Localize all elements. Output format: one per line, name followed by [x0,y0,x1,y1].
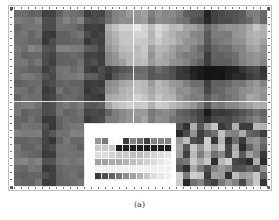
inset-cell [95,138,102,145]
axis-tick [126,187,127,189]
axis-tick [204,7,205,9]
inset-cell [123,145,130,152]
axis-tick [268,116,270,117]
inset-cell [123,166,130,173]
inset-cell [102,138,109,145]
inset-cell [123,159,130,166]
figure-panel [8,5,272,191]
axis-tick [268,52,270,53]
axis-tick [268,38,270,39]
axis-tick [268,59,270,60]
axis-tick [10,130,12,131]
inset-cell [137,145,144,152]
axis-tick [112,187,113,189]
inset-cell [158,166,165,173]
axis-tick [10,38,12,39]
axis-tick [10,24,12,25]
inset-cell [102,152,109,159]
axis-tick [119,7,120,9]
axis-tick [70,7,71,9]
axis-tick [268,144,270,145]
axis-tick [268,94,270,95]
axis-tick [10,94,12,95]
axis-tick [155,7,156,9]
axis-tick [218,7,219,9]
axis-tick [267,7,268,9]
axis-tick [10,59,12,60]
inset-cell [165,145,172,152]
axis-tick [211,7,212,9]
axis-tick [98,7,99,9]
inset-cell [130,145,137,152]
axis-tick [63,7,64,9]
axis-tick [98,187,99,189]
axis-tick [232,7,233,9]
axis-tick [10,186,12,187]
inset-cell [130,159,137,166]
inset-cell [144,173,151,180]
inset-cell [137,173,144,180]
inset-cell [116,159,123,166]
axis-tick [21,187,22,189]
inset-cell [165,159,172,166]
axis-tick [169,7,170,9]
axis-tick [169,187,170,189]
figure-caption: (a) [0,200,279,209]
axis-tick [218,187,219,189]
axis-tick [246,7,247,9]
axis-tick [190,187,191,189]
inset-cell [137,138,144,145]
axis-tick [268,102,270,103]
axis-tick [10,116,12,117]
inset-cell [109,152,116,159]
heatmap-cell [77,179,85,187]
axis-tick [268,87,270,88]
axis-tick [268,17,270,18]
inset-cell [109,173,116,180]
inset-cell [151,138,158,145]
inset-cell [95,145,102,152]
axis-tick [148,7,149,9]
axis-tick [141,7,142,9]
axis-tick [10,172,12,173]
inset-cell [109,166,116,173]
axis-tick [84,187,85,189]
axis-tick [268,66,270,67]
inset-cell [116,145,123,152]
axis-tick [246,187,247,189]
inset-cell [165,166,172,173]
inset-cell [95,152,102,159]
inset-cell [102,159,109,166]
axis-tick [126,7,127,9]
axis-tick [197,7,198,9]
axis-tick [183,187,184,189]
inset-cell [151,173,158,180]
inset-cell [109,159,116,166]
axis-tick [10,73,12,74]
axis-tick [232,187,233,189]
axis-tick [35,7,36,9]
axis-tick [42,7,43,9]
inset-cell [102,173,109,180]
axis-tick [268,165,270,166]
inset-cell [151,152,158,159]
axis-tick [10,102,12,103]
axis-tick [14,7,15,9]
inset-cell [116,166,123,173]
axis-tick [91,7,92,9]
axis-tick [268,24,270,25]
axis-tick [268,130,270,131]
inset-cell [123,173,130,180]
inset-cell [144,145,151,152]
axis-tick [141,187,142,189]
axis-tick [49,7,50,9]
axis-tick [190,7,191,9]
axis-tick [267,187,268,189]
axis-tick [10,109,12,110]
axis-tick [134,7,135,9]
inset-cell [165,138,172,145]
axis-tick [162,7,163,9]
axis-tick [260,187,261,189]
inset-cell [158,152,165,159]
inset-cell [116,138,123,145]
